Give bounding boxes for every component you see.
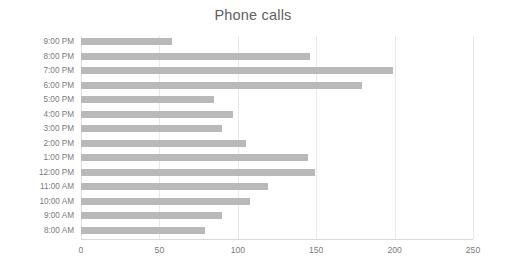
bar[interactable] (81, 67, 393, 74)
bar[interactable] (81, 227, 205, 234)
y-axis-label: 6:00 PM (0, 81, 74, 91)
bar-row[interactable] (81, 123, 473, 138)
bar-row[interactable] (81, 181, 473, 196)
bar-row[interactable] (81, 152, 473, 167)
bar[interactable] (81, 53, 310, 60)
y-axis-label: 8:00 PM (0, 52, 74, 62)
y-axis-category-labels: 9:00 PM8:00 PM7:00 PM6:00 PM5:00 PM4:00 … (0, 36, 74, 239)
bar-row[interactable] (81, 138, 473, 153)
y-axis-label: 8:00 AM (0, 226, 74, 236)
bar-row[interactable] (81, 94, 473, 109)
x-axis-tick-label: 250 (453, 245, 493, 255)
y-axis-label: 1:00 PM (0, 153, 74, 163)
bar[interactable] (81, 125, 222, 132)
y-axis-label: 9:00 PM (0, 37, 74, 47)
x-axis-tick-label: 100 (218, 245, 258, 255)
bar[interactable] (81, 154, 308, 161)
bars-layer (81, 36, 473, 239)
bar[interactable] (81, 183, 268, 190)
y-axis-label: 11:00 AM (0, 182, 74, 192)
x-axis-line (81, 239, 473, 240)
x-axis-tick-label: 0 (61, 245, 101, 255)
y-axis-label: 4:00 PM (0, 110, 74, 120)
bar[interactable] (81, 38, 172, 45)
bar-row[interactable] (81, 167, 473, 182)
bar-row[interactable] (81, 51, 473, 66)
x-axis-tick-label: 150 (296, 245, 336, 255)
bar[interactable] (81, 111, 233, 118)
chart-title: Phone calls (0, 7, 506, 23)
bar-row[interactable] (81, 65, 473, 80)
plot-area (81, 36, 473, 239)
bar[interactable] (81, 140, 246, 147)
bar-row[interactable] (81, 80, 473, 95)
bar[interactable] (81, 198, 250, 205)
bar[interactable] (81, 82, 362, 89)
bar-row[interactable] (81, 109, 473, 124)
bar[interactable] (81, 212, 222, 219)
y-axis-label: 12:00 PM (0, 168, 74, 178)
x-axis-tick-labels: 050100150200250 (0, 245, 506, 261)
y-axis-label: 5:00 PM (0, 95, 74, 105)
bar[interactable] (81, 169, 315, 176)
y-axis-label: 10:00 AM (0, 197, 74, 207)
gridline-250 (473, 36, 474, 239)
bar-row[interactable] (81, 210, 473, 225)
y-axis-label: 9:00 AM (0, 211, 74, 221)
x-axis-tick-label: 50 (139, 245, 179, 255)
y-axis-label: 7:00 PM (0, 66, 74, 76)
x-axis-tick-label: 200 (375, 245, 415, 255)
y-axis-label: 3:00 PM (0, 124, 74, 134)
bar-row[interactable] (81, 196, 473, 211)
bar[interactable] (81, 96, 214, 103)
bar-row[interactable] (81, 36, 473, 51)
phone-calls-bar-chart: Phone calls 9:00 PM8:00 PM7:00 PM6:00 PM… (0, 0, 506, 277)
y-axis-label: 2:00 PM (0, 139, 74, 149)
bar-row[interactable] (81, 225, 473, 240)
